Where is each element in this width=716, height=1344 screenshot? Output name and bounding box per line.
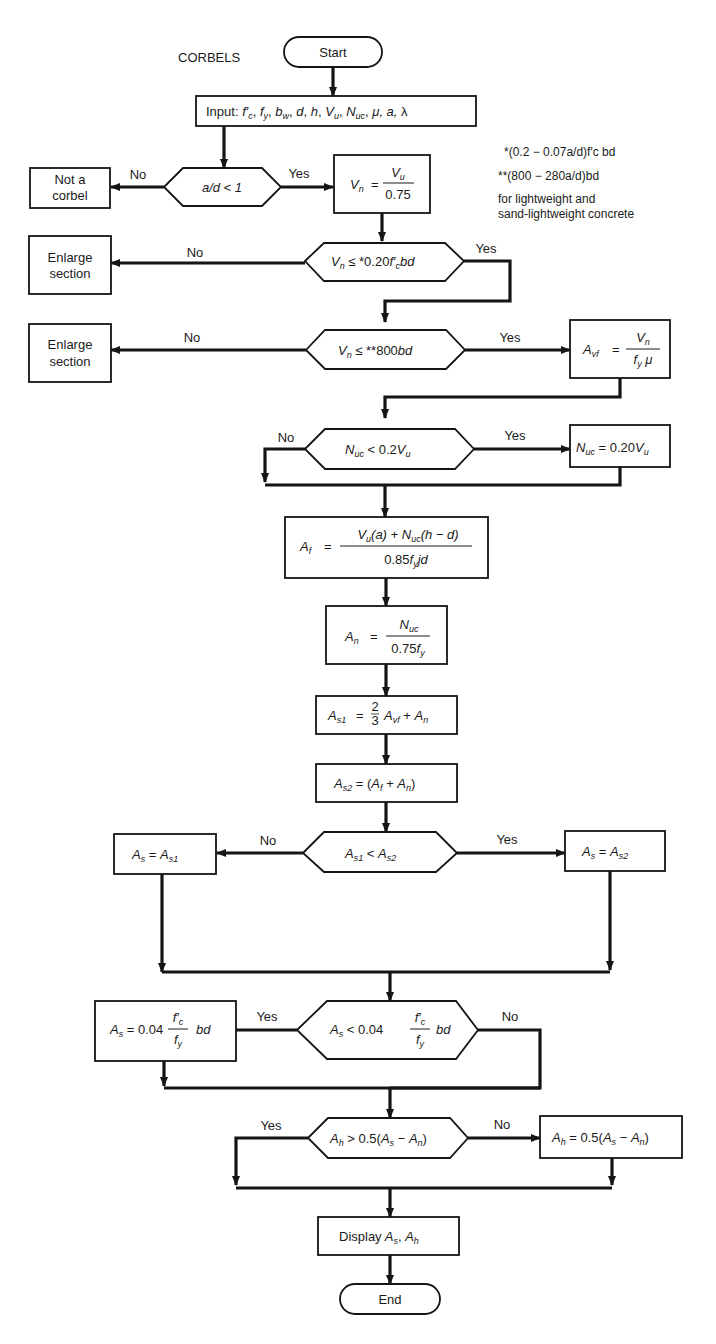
svg-text:0.85fyjd: 0.85fyjd [384,552,428,569]
note-2: **(800 − 280a/d)bd [498,169,599,183]
svg-text:fy μ: fy μ [634,352,653,369]
svg-text:=: = [371,177,379,192]
decision-ah: Ah > 0.5(As − An) [308,1118,468,1158]
no-label: No [278,430,295,445]
svg-text:2: 2 [371,699,378,714]
footnotes: *(0.2 − 0.07a/d)f′c bd **(800 − 280a/d)b… [498,145,634,221]
no-arrow [265,449,305,482]
svg-text:0.75fy: 0.75fy [391,641,425,658]
svg-text:Vu(a) + Nuc(h − d): Vu(a) + Nuc(h − d) [357,527,458,544]
svg-text:Enlarge: Enlarge [48,337,93,352]
start-terminal: Start [284,37,382,67]
an-box: An = Nuc 0.75fy [326,606,447,664]
no-label: No [494,1117,511,1132]
as-equals-as2-box: As = As2 [565,831,665,871]
ah-assign-box: Ah = 0.5(As − An) [540,1116,682,1158]
svg-text:Ah > 0.5(As − An): Ah > 0.5(As − An) [329,1131,427,1148]
as2-box: As2 = (Af + An) [316,764,457,802]
svg-text:section: section [49,266,90,281]
svg-text:=: = [356,708,364,723]
yes-label: Yes [499,330,521,345]
svg-text:=: = [370,629,378,644]
af-box: Af = Vu(a) + Nuc(h − d) 0.85fyjd [285,517,488,578]
svg-text:Display As, Ah: Display As, Ah [339,1229,419,1246]
svg-text:Enlarge: Enlarge [48,250,93,265]
avf-box: Avf = Vn fy μ [570,320,670,378]
corbel-flowchart: CORBELS Start Input: f′c, fy, bw, d, h, … [0,0,716,1344]
decision-nuc: Nuc < 0.2Vu [305,429,474,469]
flow-arrow [385,378,620,418]
decision-as1-as2: As1 < As2 [303,832,457,872]
yes-label: Yes [475,241,497,256]
decision-vn-limit-1: Vn ≤ *0.20f′cbd [305,243,464,281]
decision-text: a/d < 1 [202,180,242,195]
yes-label: Yes [496,832,518,847]
decision-as-min: As < 0.04 f′c fy bd [297,1001,478,1059]
no-label: No [260,833,277,848]
end-label: End [378,1292,401,1307]
yes-arrow [236,1138,308,1185]
input-label: Input: f′c, fy, bw, d, h, Vu, Nuc, μ, a,… [206,104,408,121]
svg-text:As < 0.04: As < 0.04 [329,1022,383,1039]
svg-text:bd: bd [436,1022,451,1037]
no-label: No [184,330,201,345]
svg-text:=: = [612,342,620,357]
no-label: No [187,245,204,260]
vn-box: Vn = Vu 0.75 [334,155,430,213]
display-box: Display As, Ah [318,1217,459,1255]
note-1: *(0.2 − 0.07a/d)f′c bd [504,145,615,159]
svg-text:=: = [324,539,332,554]
note-3-line2: sand-lightweight concrete [498,207,634,221]
svg-text:Avf + An: Avf + An [383,708,428,725]
as1-box: As1 = 2 3 Avf + An [316,696,457,734]
svg-text:Not a: Not a [54,172,86,187]
svg-text:Ah = 0.5(As − An): Ah = 0.5(As − An) [551,1130,649,1147]
svg-text:As = 0.04: As = 0.04 [109,1022,163,1039]
svg-text:0.75: 0.75 [385,187,410,202]
yes-label: Yes [256,1009,278,1024]
svg-text:bd: bd [196,1022,211,1037]
enlarge-section-box-2: Enlarge section [29,324,111,382]
yes-label: Yes [504,428,526,443]
svg-text:corbel: corbel [52,188,88,203]
not-a-corbel-box: Not a corbel [30,168,110,208]
chart-title: CORBELS [178,50,240,65]
svg-text:3: 3 [371,713,378,728]
nuc-assign-box: Nuc = 0.20Vu [570,425,670,467]
decision-vn-limit-2: Vn ≤ **800bd [306,330,465,369]
yes-label: Yes [288,166,310,181]
start-label: Start [319,45,347,60]
decision-a-d-ratio: a/d < 1 [164,168,281,206]
as-min-box: As = 0.04 f′c fy bd [95,1001,236,1061]
yes-label: Yes [260,1118,282,1133]
as-equals-as1-box: As = As1 [114,834,216,874]
note-3-line1: for lightweight and [498,192,595,206]
svg-text:section: section [49,354,90,369]
input-box: Input: f′c, fy, bw, d, h, Vu, Nuc, μ, a,… [196,96,476,126]
no-label: No [502,1009,519,1024]
end-terminal: End [340,1284,440,1314]
no-label: No [130,167,147,182]
enlarge-section-box-1: Enlarge section [29,236,111,294]
